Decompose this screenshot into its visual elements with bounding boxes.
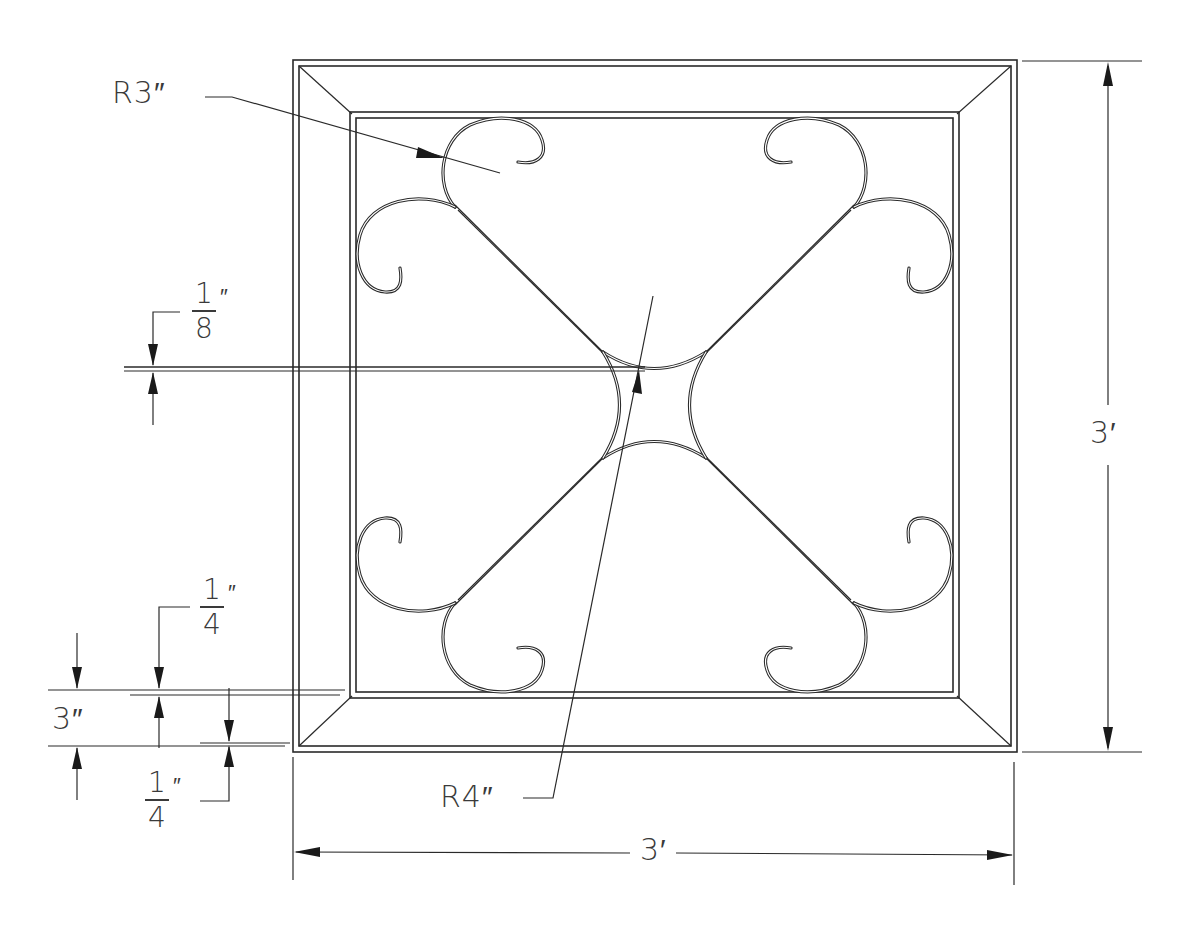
label-frame-width: 3″ xyxy=(52,704,84,734)
fraction-numerator: 1 xyxy=(192,280,216,308)
label-bottom-inset: 1 4 ″ xyxy=(145,769,169,832)
label-r3: R3″ xyxy=(112,78,166,108)
fraction-denominator: 4 xyxy=(145,804,169,832)
label-top-inset: 1 4 ″ xyxy=(200,576,224,639)
fraction-numerator: 1 xyxy=(145,769,169,797)
frame-miters xyxy=(299,66,1011,746)
fraction-denominator: 8 xyxy=(192,315,216,343)
label-overall-height: 3′ xyxy=(1090,418,1117,448)
center-concave-arcs xyxy=(603,352,706,458)
label-center-gap: 1 8 ″ xyxy=(192,280,216,343)
outer-frame xyxy=(293,60,1017,752)
inner-frame xyxy=(350,112,959,698)
dim-overall-height xyxy=(1022,61,1142,752)
grille xyxy=(357,118,951,692)
fraction-numerator: 1 xyxy=(200,576,224,604)
dim-frame-width xyxy=(48,607,345,801)
fraction-unit: ″ xyxy=(228,580,236,606)
label-r4: R4″ xyxy=(440,782,494,812)
fraction-unit: ″ xyxy=(220,284,228,310)
fraction-unit: ″ xyxy=(173,773,181,799)
label-overall-width: 3′ xyxy=(640,835,667,865)
fraction-denominator: 4 xyxy=(200,611,224,639)
